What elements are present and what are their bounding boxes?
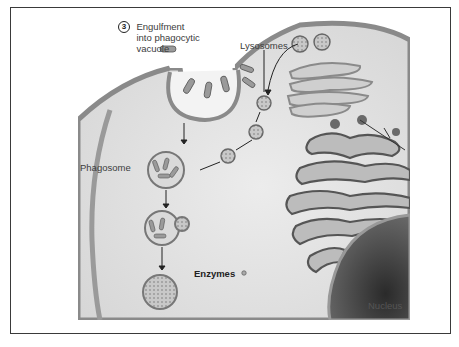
cell-illustration (0, 0, 459, 347)
step-title-line2: into phagocytic (136, 32, 199, 43)
step-title-line1: Engulfment (136, 21, 184, 32)
label-nucleus: Nucleus (368, 300, 402, 311)
label-phagosome: Phagosome (80, 162, 131, 173)
step-3-caption: 3 Engulfment into phagocytic vacuole (118, 21, 200, 54)
step-number-badge: 3 (118, 21, 130, 33)
label-enzymes: Enzymes (194, 268, 235, 279)
step-title-line3: vacuole (136, 43, 169, 54)
label-lysosomes: Lysosomes (240, 40, 288, 51)
